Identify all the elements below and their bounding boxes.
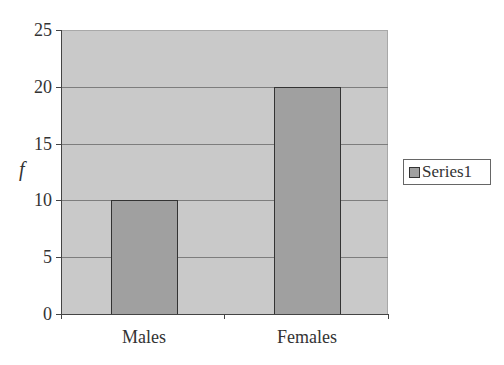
x-axis bbox=[61, 314, 389, 315]
y-axis bbox=[61, 30, 62, 315]
legend-swatch-icon bbox=[409, 167, 420, 178]
y-tick bbox=[56, 30, 62, 31]
x-tick bbox=[224, 314, 225, 319]
x-tick bbox=[61, 314, 62, 319]
bar-males bbox=[111, 200, 178, 315]
x-category-label-females: Females bbox=[247, 327, 367, 348]
y-tick bbox=[56, 144, 62, 145]
y-tick-label: 20 bbox=[20, 78, 52, 96]
y-tick bbox=[56, 257, 62, 258]
legend: Series1 bbox=[403, 159, 491, 185]
y-tick bbox=[56, 87, 62, 88]
y-tick-label: 0 bbox=[20, 305, 52, 323]
x-tick bbox=[388, 314, 389, 319]
legend-label: Series1 bbox=[422, 162, 472, 182]
y-tick-label: 5 bbox=[20, 248, 52, 266]
y-tick-label: 25 bbox=[20, 21, 52, 39]
y-tick bbox=[56, 200, 62, 201]
bar-females bbox=[274, 87, 341, 315]
x-category-label-males: Males bbox=[84, 327, 204, 348]
y-tick-label: 15 bbox=[20, 135, 52, 153]
y-axis-title: f bbox=[19, 158, 25, 181]
y-tick-label: 10 bbox=[20, 191, 52, 209]
